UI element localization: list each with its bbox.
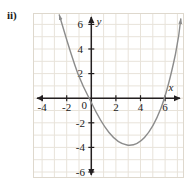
y-axis-label: y xyxy=(96,15,102,27)
item-label: ii) xyxy=(7,9,17,21)
x-tick-label-2: 2 xyxy=(113,101,119,113)
y-tick-label-minus4: -4 xyxy=(76,141,86,153)
y-tick-label-4: 4 xyxy=(78,43,84,55)
y-tick-label-6: 6 xyxy=(78,18,84,30)
y-tick-label-minus6: -6 xyxy=(76,166,86,178)
x-tick-label-minus2: -2 xyxy=(62,101,71,113)
x-tick-label-4: 4 xyxy=(138,101,144,113)
origin-label: 0 xyxy=(82,99,88,111)
plot-svg: -4 -2 2 4 6 6 4 2 -2 -4 -6 0 x y xyxy=(33,13,184,178)
coordinate-plot: -4 -2 2 4 6 6 4 2 -2 -4 -6 0 x y xyxy=(33,13,184,178)
grid-background xyxy=(34,14,184,178)
figure-panel: ii) xyxy=(0,0,188,190)
y-tick-label-minus2: -2 xyxy=(76,117,85,129)
x-tick-label-minus4: -4 xyxy=(38,101,48,113)
